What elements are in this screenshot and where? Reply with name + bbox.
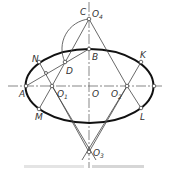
line-O2-L — [127, 86, 141, 108]
point-O2 — [125, 84, 129, 88]
label-B: B — [92, 52, 98, 62]
point-right-vertex — [152, 84, 156, 88]
point-O1 — [50, 84, 54, 88]
point-M — [37, 107, 41, 111]
label-O: O — [92, 89, 99, 99]
label-N: N — [32, 54, 39, 64]
point-mid-AD — [45, 72, 48, 75]
caption-placeholder — [24, 165, 84, 168]
line-O1-M — [39, 86, 52, 109]
label-D: D — [66, 66, 73, 76]
point-C-O4 — [87, 17, 91, 21]
label-A: A — [18, 89, 25, 99]
label-C: C — [80, 7, 87, 17]
caption-placeholder-2 — [92, 165, 144, 168]
label-O2: O2 — [111, 89, 122, 100]
label-O1: O1 — [57, 89, 68, 100]
point-D — [63, 60, 67, 64]
construction-arc — [62, 19, 89, 62]
point-L — [139, 106, 143, 110]
label-O3: O3 — [93, 148, 104, 159]
line-O3-N — [39, 62, 89, 152]
point-O3 — [87, 150, 91, 154]
point-B — [87, 47, 91, 51]
label-O4: O4 — [92, 9, 103, 20]
label-M: M — [35, 112, 43, 122]
label-K: K — [140, 50, 147, 60]
point-A — [24, 84, 28, 88]
point-K — [139, 60, 143, 64]
ellipse-construction-diagram: C O4 B N D K A O1 O O2 M L O3 — [0, 0, 171, 173]
label-L: L — [140, 112, 145, 122]
